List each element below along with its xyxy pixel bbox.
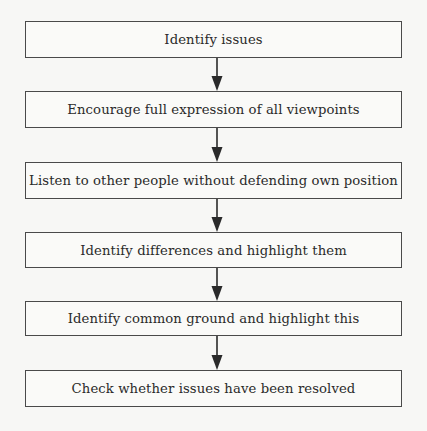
step-box-listen-without-defending: Listen to other people without defending… <box>25 162 402 199</box>
arrow-down-icon <box>210 58 224 91</box>
step-label: Identify common ground and highlight thi… <box>68 311 360 326</box>
flowchart: Identify issues Encourage full expressio… <box>0 0 427 431</box>
step-label: Check whether issues have been resolved <box>72 381 356 396</box>
step-label: Encourage full expression of all viewpoi… <box>67 102 359 117</box>
step-box-identify-issues: Identify issues <box>25 21 402 58</box>
step-box-identify-differences: Identify differences and highlight them <box>25 232 402 268</box>
step-box-check-resolved: Check whether issues have been resolved <box>25 370 402 407</box>
step-box-encourage-expression: Encourage full expression of all viewpoi… <box>25 91 402 128</box>
step-label: Identify differences and highlight them <box>80 243 346 258</box>
step-label: Listen to other people without defending… <box>29 173 398 188</box>
arrow-down-icon <box>210 336 224 370</box>
step-label: Identify issues <box>164 32 262 47</box>
step-box-identify-common-ground: Identify common ground and highlight thi… <box>25 301 402 336</box>
arrow-down-icon <box>210 199 224 232</box>
arrow-down-icon <box>210 128 224 162</box>
arrow-down-icon <box>210 268 224 301</box>
